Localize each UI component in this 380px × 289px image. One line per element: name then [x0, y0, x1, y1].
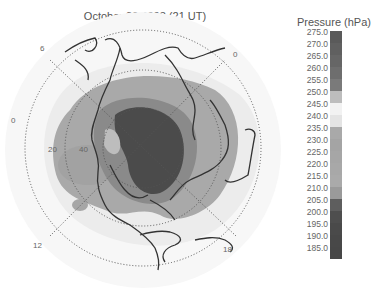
colorbar-segment — [330, 187, 342, 199]
colorbar-tick-label: 195.0 — [302, 218, 328, 230]
colorbar-tick-label: 235.0 — [302, 122, 328, 134]
colorbar-tick-label: 225.0 — [302, 146, 328, 158]
local-time-label-0-left: 0 — [11, 116, 15, 125]
colorbar-segment — [330, 175, 342, 187]
colorbar-tick-label: 265.0 — [302, 50, 328, 62]
colorbar-segment — [330, 163, 342, 175]
colorbar-tick-label: 190.0 — [302, 230, 328, 242]
colorbar-segment — [330, 199, 342, 211]
colorbar-tick-label: 185.0 — [302, 242, 328, 254]
colorbar-segment — [330, 211, 342, 223]
colorbar-tick-label: 270.0 — [302, 38, 328, 50]
latitude-label-20: 20 — [48, 145, 57, 154]
colorbar-segment — [330, 223, 342, 235]
colorbar-labels: 275.0270.0265.0260.0255.0250.0245.0240.0… — [302, 26, 328, 254]
colorbar-segment — [330, 139, 342, 151]
colorbar-segment — [330, 67, 342, 79]
colorbar-tick-label: 255.0 — [302, 74, 328, 86]
colorbar-segment — [330, 151, 342, 163]
colorbar — [330, 31, 342, 259]
colorbar-segment — [330, 235, 342, 247]
colorbar-segment — [330, 43, 342, 55]
colorbar-tick-label: 260.0 — [302, 62, 328, 74]
colorbar-tick-label: 200.0 — [302, 206, 328, 218]
colorbar-tick-label: 215.0 — [302, 170, 328, 182]
colorbar-segment — [330, 79, 342, 91]
colorbar-segment — [330, 103, 342, 115]
colorbar-tick-label: 210.0 — [302, 182, 328, 194]
colorbar-segment — [330, 55, 342, 67]
colorbar-tick-label: 275.0 — [302, 26, 328, 38]
colorbar-segment — [330, 127, 342, 139]
colorbar-tick-label: 220.0 — [302, 158, 328, 170]
local-time-label-6: 6 — [40, 44, 44, 53]
polar-map — [0, 0, 300, 289]
local-time-label-12: 12 — [33, 241, 42, 250]
local-time-label-0-right: 0 — [233, 50, 237, 59]
colorbar-segment — [330, 247, 342, 259]
colorbar-segment — [330, 31, 342, 43]
colorbar-tick-label: 240.0 — [302, 110, 328, 122]
colorbar-tick-label: 205.0 — [302, 194, 328, 206]
colorbar-tick-label: 250.0 — [302, 86, 328, 98]
colorbar-tick-label: 230.0 — [302, 134, 328, 146]
latitude-label-40: 40 — [79, 145, 88, 154]
colorbar-segment — [330, 115, 342, 127]
colorbar-tick-label: 245.0 — [302, 98, 328, 110]
colorbar-segment — [330, 91, 342, 103]
local-time-label-18: 18 — [223, 245, 232, 254]
